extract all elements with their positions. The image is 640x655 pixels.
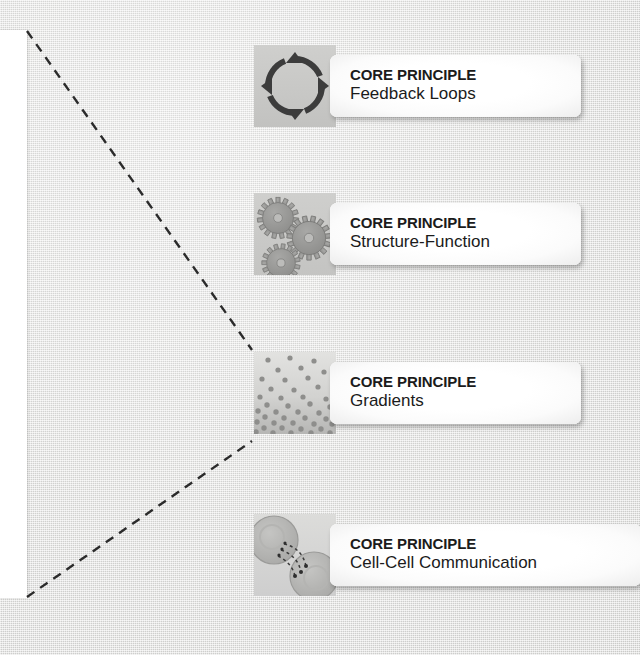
card-title: Feedback Loops	[350, 84, 565, 105]
card-title: Cell-Cell Communication	[350, 553, 625, 574]
principle-label-plate: CORE PRINCIPLE Structure-Function	[330, 203, 581, 265]
callout-line-bottom	[27, 441, 252, 597]
card-kicker: CORE PRINCIPLE	[350, 214, 565, 232]
figure-canvas: CORE PRINCIPLE Feedback Loops	[0, 0, 640, 655]
feedback-loop-icon	[254, 45, 336, 127]
principle-card-structure-function[interactable]: CORE PRINCIPLE Structure-Function	[254, 193, 581, 275]
page-edge-panel	[0, 30, 27, 598]
principle-label-plate: CORE PRINCIPLE Cell-Cell Communication	[330, 524, 640, 586]
principle-card-gradients[interactable]: CORE PRINCIPLE Gradients	[254, 352, 581, 434]
principle-label-plate: CORE PRINCIPLE Gradients	[330, 362, 581, 424]
card-kicker: CORE PRINCIPLE	[350, 535, 625, 553]
card-kicker: CORE PRINCIPLE	[350, 66, 565, 84]
principle-card-cell-communication[interactable]: CORE PRINCIPLE Cell-Cell Communication	[254, 514, 640, 596]
card-title: Structure-Function	[350, 232, 565, 253]
gears-icon	[254, 193, 336, 275]
principle-card-feedback-loops[interactable]: CORE PRINCIPLE Feedback Loops	[254, 45, 581, 127]
card-title: Gradients	[350, 391, 565, 412]
principle-label-plate: CORE PRINCIPLE Feedback Loops	[330, 55, 581, 117]
gradient-dots-icon	[254, 352, 336, 434]
card-kicker: CORE PRINCIPLE	[350, 373, 565, 391]
callout-line-top	[27, 31, 252, 350]
cell-communication-icon	[254, 514, 336, 596]
